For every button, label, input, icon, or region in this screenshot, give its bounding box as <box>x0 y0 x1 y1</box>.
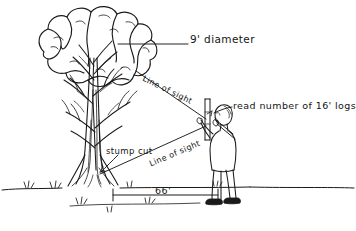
log-count-label: read number of 16' logs <box>233 100 356 111</box>
crown-diameter-label: 9' diameter <box>190 33 255 45</box>
sketch-illustration <box>0 0 356 231</box>
observer-figure <box>197 105 240 205</box>
grass-tufts <box>24 181 222 212</box>
baseline-distance-label: 66' <box>155 185 171 196</box>
stump-cut-label: stump cut <box>106 146 153 156</box>
diagram-canvas: 9' diameter read number of 16' logs Line… <box>0 0 356 231</box>
ground-line <box>2 187 354 206</box>
stump-arrowhead <box>100 167 105 172</box>
